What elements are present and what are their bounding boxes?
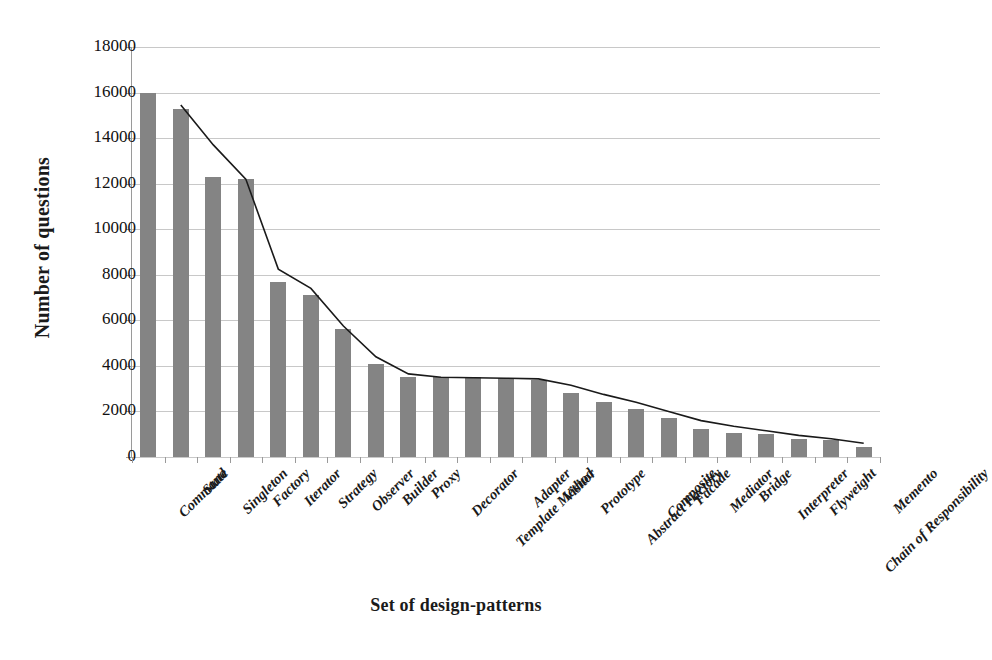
y-tick-label: 0 xyxy=(16,446,136,466)
bar xyxy=(726,433,742,457)
x-tick-mark xyxy=(457,457,458,463)
bar xyxy=(661,418,677,457)
x-tick-mark xyxy=(717,457,718,463)
x-tick-mark xyxy=(230,457,231,463)
bar xyxy=(498,378,514,457)
x-tick-mark xyxy=(782,457,783,463)
x-tick-mark xyxy=(295,457,296,463)
bar xyxy=(465,377,481,457)
x-tick-mark xyxy=(165,457,166,463)
gridline xyxy=(132,457,880,458)
x-tick-mark xyxy=(750,457,751,463)
bar xyxy=(335,329,351,457)
gridline xyxy=(132,93,880,94)
y-tick-label: 6000 xyxy=(16,309,136,329)
x-tick-mark xyxy=(327,457,328,463)
x-tick-mark xyxy=(132,457,133,463)
x-tick-mark xyxy=(847,457,848,463)
y-tick-label: 10000 xyxy=(16,218,136,238)
y-tick-label: 18000 xyxy=(16,36,136,56)
bar xyxy=(791,439,807,457)
gridline xyxy=(132,138,880,139)
x-tick-mark xyxy=(815,457,816,463)
bar xyxy=(368,364,384,457)
x-tick-mark xyxy=(197,457,198,463)
bar xyxy=(270,282,286,457)
bar xyxy=(628,409,644,457)
x-axis-label: Memento xyxy=(889,465,941,517)
y-axis-title: Number of questions xyxy=(31,108,54,388)
bar xyxy=(596,402,612,457)
y-tick-label: 16000 xyxy=(16,82,136,102)
y-tick-label: 14000 xyxy=(16,127,136,147)
x-tick-mark xyxy=(392,457,393,463)
x-tick-mark xyxy=(652,457,653,463)
y-tick-label: 8000 xyxy=(16,264,136,284)
x-tick-mark xyxy=(587,457,588,463)
x-tick-mark xyxy=(555,457,556,463)
bar xyxy=(563,393,579,457)
bar xyxy=(758,434,774,457)
x-tick-mark xyxy=(522,457,523,463)
y-tick-label: 12000 xyxy=(16,173,136,193)
plot-area: 0200040006000800010000120001400016000180… xyxy=(132,47,880,457)
bar xyxy=(823,440,839,457)
bar xyxy=(238,179,254,457)
bar xyxy=(173,109,189,458)
bar xyxy=(693,429,709,457)
x-tick-mark xyxy=(620,457,621,463)
x-tick-mark xyxy=(262,457,263,463)
y-axis-line xyxy=(131,47,132,458)
x-axis-label: Prototype xyxy=(597,465,649,517)
gridline xyxy=(132,47,880,48)
x-tick-mark xyxy=(880,457,881,463)
x-tick-mark xyxy=(360,457,361,463)
y-tick-label: 4000 xyxy=(16,355,136,375)
bar xyxy=(205,177,221,457)
x-axis-title: Set of design-patterns xyxy=(0,595,912,616)
x-tick-mark xyxy=(490,457,491,463)
bar xyxy=(433,377,449,457)
bar xyxy=(303,295,319,457)
bar xyxy=(531,380,547,457)
x-tick-mark xyxy=(685,457,686,463)
x-tick-mark xyxy=(425,457,426,463)
bar xyxy=(140,93,156,457)
y-tick-label: 2000 xyxy=(16,400,136,420)
bar xyxy=(856,447,872,457)
bar xyxy=(400,377,416,457)
x-axis-label: Decorator xyxy=(468,465,523,520)
